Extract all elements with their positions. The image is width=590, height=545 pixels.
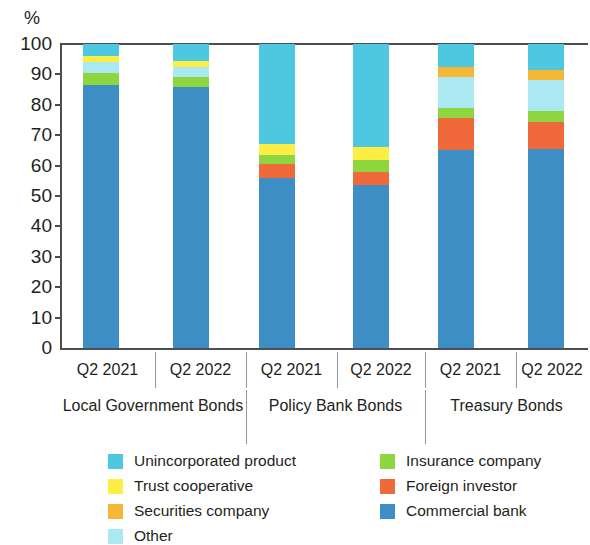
category-divider: [337, 352, 338, 388]
y-axis-tick-label: 20: [4, 277, 52, 296]
bar-segment: [83, 73, 119, 85]
bar-segment: [353, 160, 389, 172]
category-divider: [516, 352, 517, 388]
bar-segment: [173, 77, 209, 86]
category-divider: [246, 352, 247, 388]
bar-segment: [173, 61, 209, 67]
bar-segment: [83, 85, 119, 348]
y-axis-tick-label: 50: [4, 186, 52, 205]
bar-segment: [353, 172, 389, 186]
y-axis-tick-mark: [55, 256, 62, 258]
y-axis-tick-mark: [55, 225, 62, 227]
bar-segment: [259, 178, 295, 348]
group-label-row: Local Government BondsPolicy Bank BondsT…: [60, 390, 588, 446]
category-label: Q2 2021: [246, 350, 337, 390]
legend-item: Unincorporated product: [108, 452, 296, 470]
category-label: Q2 2022: [155, 350, 246, 390]
y-axis-tick-mark: [55, 317, 62, 319]
legend-label: Other: [134, 527, 173, 545]
bar-stack: [259, 44, 295, 348]
bar-segment: [83, 44, 119, 56]
bar-segment: [438, 67, 474, 78]
group-label: Treasury Bonds: [425, 390, 588, 446]
bar-segment: [528, 122, 564, 149]
chart-legend: Unincorporated productTrust cooperativeS…: [108, 452, 578, 534]
category-label: Q2 2021: [60, 350, 155, 390]
group-divider: [425, 390, 426, 444]
y-axis-tick-mark: [55, 104, 62, 106]
group-divider: [246, 390, 247, 444]
legend-color-swatch: [380, 454, 395, 469]
bar-stack: [83, 44, 119, 348]
legend-label: Foreign investor: [406, 477, 517, 495]
bar-stack: [173, 44, 209, 348]
category-divider: [425, 352, 426, 388]
bar-segment: [438, 118, 474, 150]
y-axis-tick-mark: [55, 134, 62, 136]
bar-stack: [438, 44, 474, 348]
y-axis-tick-label: 90: [4, 64, 52, 83]
bar-segment: [259, 164, 295, 178]
group-label: Local Government Bonds: [60, 390, 246, 446]
y-axis-tick-mark: [55, 73, 62, 75]
bar-segment: [259, 44, 295, 144]
bar-segment: [438, 150, 474, 348]
legend-color-swatch: [380, 479, 395, 494]
bar-segment: [528, 44, 564, 70]
bar-segment: [353, 185, 389, 348]
y-axis-tick-label: 30: [4, 247, 52, 266]
y-axis-tick-mark: [55, 165, 62, 167]
bar-segment: [173, 67, 209, 78]
y-axis-tick-label: 0: [4, 338, 52, 357]
category-label: Q2 2022: [337, 350, 425, 390]
bar-segment: [438, 44, 474, 67]
bar-segment: [83, 62, 119, 73]
y-axis-tick-label: 80: [4, 95, 52, 114]
legend-item: Insurance company: [380, 452, 541, 470]
legend-item: Foreign investor: [380, 477, 517, 495]
bar-segment: [353, 44, 389, 147]
legend-item: Commercial bank: [380, 502, 527, 520]
y-axis-tick-mark: [55, 195, 62, 197]
bar-stack: [353, 44, 389, 348]
y-axis-tick-label: 60: [4, 156, 52, 175]
y-axis-tick-label: 10: [4, 308, 52, 327]
y-axis-tick-label: 70: [4, 125, 52, 144]
bar-segment: [528, 149, 564, 348]
y-axis-tick-mark: [55, 286, 62, 288]
bar-segment: [173, 87, 209, 348]
legend-color-swatch: [108, 454, 123, 469]
plot-top-border: [60, 43, 588, 45]
y-axis-tick-label: 40: [4, 216, 52, 235]
bar-stack: [528, 44, 564, 348]
bar-segment: [173, 44, 209, 61]
category-divider: [155, 352, 156, 388]
legend-label: Unincorporated product: [134, 452, 296, 470]
bar-segment: [353, 147, 389, 159]
y-axis-unit-label: %: [24, 8, 40, 29]
legend-color-swatch: [108, 479, 123, 494]
legend-color-swatch: [108, 529, 123, 544]
category-label: Q2 2022: [516, 350, 588, 390]
legend-color-swatch: [380, 504, 395, 519]
bar-segment: [528, 70, 564, 81]
legend-item: Securities company: [108, 502, 269, 520]
legend-item: Other: [108, 527, 173, 545]
category-label-row: Q2 2021Q2 2022Q2 2021Q2 2022Q2 2021Q2 20…: [60, 350, 588, 390]
bar-segment: [438, 108, 474, 119]
legend-label: Trust cooperative: [134, 477, 253, 495]
legend-label: Commercial bank: [406, 502, 527, 520]
bar-segment: [259, 144, 295, 155]
legend-color-swatch: [108, 504, 123, 519]
category-label: Q2 2021: [425, 350, 516, 390]
group-label: Policy Bank Bonds: [246, 390, 425, 446]
y-axis-tick-label: 100: [4, 34, 52, 53]
bar-segment: [259, 155, 295, 164]
bar-segment: [83, 56, 119, 62]
bar-segment: [438, 77, 474, 107]
legend-label: Insurance company: [406, 452, 541, 470]
bar-segment: [528, 80, 564, 110]
bar-segment: [528, 111, 564, 122]
legend-label: Securities company: [134, 502, 269, 520]
